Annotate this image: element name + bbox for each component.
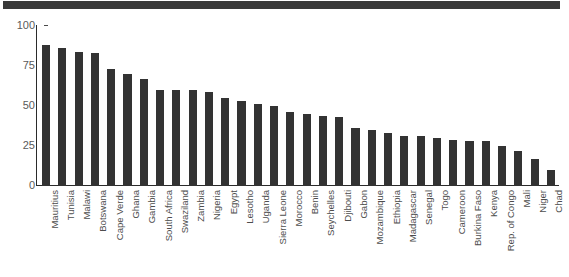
x-axis-tick-label: South Africa bbox=[164, 190, 174, 241]
x-axis-tick-label: Gabon bbox=[359, 190, 369, 219]
bar[interactable] bbox=[237, 101, 245, 186]
x-axis-tick-label: Madagascar bbox=[408, 190, 418, 242]
bar-slot bbox=[119, 25, 135, 186]
bar-slot bbox=[526, 25, 542, 186]
bar-slot bbox=[543, 25, 559, 186]
bar-slot bbox=[478, 25, 494, 186]
bar[interactable] bbox=[172, 90, 180, 186]
bar[interactable] bbox=[123, 74, 131, 186]
x-axis-tick-label: Botswana bbox=[98, 190, 108, 232]
x-axis-tick-label: Sierra Leone bbox=[278, 190, 288, 244]
x-axis-tick-label: Egypt bbox=[229, 190, 239, 214]
bar-slot bbox=[445, 25, 461, 186]
bar-slot bbox=[380, 25, 396, 186]
x-axis-tick-label: Benin bbox=[310, 190, 320, 214]
x-axis-tick-label: Mozambique bbox=[375, 190, 385, 244]
bar[interactable] bbox=[547, 170, 555, 186]
bar[interactable] bbox=[107, 69, 115, 186]
bar-slot bbox=[136, 25, 152, 186]
bar-slot bbox=[412, 25, 428, 186]
bar-slot bbox=[347, 25, 363, 186]
bar[interactable] bbox=[482, 141, 490, 186]
x-axis-tick-label: Seychelles bbox=[326, 190, 336, 236]
x-axis-tick-label: Niger bbox=[538, 190, 548, 213]
bar[interactable] bbox=[433, 138, 441, 186]
bar-slot bbox=[168, 25, 184, 186]
bar-slot bbox=[266, 25, 282, 186]
bar[interactable] bbox=[449, 140, 457, 186]
bar-slot bbox=[282, 25, 298, 186]
bar-slot bbox=[250, 25, 266, 186]
bar-slot bbox=[510, 25, 526, 186]
bar[interactable] bbox=[368, 130, 376, 186]
bar-slot bbox=[152, 25, 168, 186]
x-axis-tick-label: Malawi bbox=[82, 190, 92, 220]
bar[interactable] bbox=[319, 116, 327, 186]
bar[interactable] bbox=[91, 53, 99, 186]
x-axis-tick-label: Mali bbox=[522, 190, 532, 207]
bar[interactable] bbox=[351, 128, 359, 186]
x-axis-tick-label: Kenya bbox=[489, 190, 499, 217]
bar-slot bbox=[396, 25, 412, 186]
x-axis-tick-label: Gambia bbox=[147, 190, 157, 223]
bar[interactable] bbox=[140, 79, 148, 186]
x-axis-tick-label: Swaziland bbox=[180, 190, 190, 233]
x-axis-tick-label: Chad bbox=[554, 190, 564, 213]
bar-slot bbox=[494, 25, 510, 186]
bar-slot bbox=[364, 25, 380, 186]
bar[interactable] bbox=[303, 114, 311, 186]
bar[interactable] bbox=[75, 52, 83, 186]
x-axis-tick-label: Rep. of Congo bbox=[506, 190, 516, 251]
plot-area: 0255075100 MauritiusTunisiaMalawiBotswan… bbox=[0, 0, 569, 277]
x-axis-tick-label: Ethiopia bbox=[392, 190, 402, 224]
bar-slot bbox=[54, 25, 70, 186]
x-axis-tick-label: Uganda bbox=[261, 190, 271, 223]
bar-slot bbox=[185, 25, 201, 186]
bar-slot bbox=[103, 25, 119, 186]
bar[interactable] bbox=[58, 48, 66, 186]
bar[interactable] bbox=[270, 106, 278, 186]
x-axis-tick-label: Tunisia bbox=[66, 190, 76, 220]
bar-slot bbox=[71, 25, 87, 186]
bar[interactable] bbox=[498, 146, 506, 186]
x-axis-tick-label: Senegal bbox=[424, 190, 434, 225]
bar-group bbox=[38, 25, 559, 186]
x-axis-tick-label: Morocco bbox=[294, 190, 304, 226]
bar-slot bbox=[429, 25, 445, 186]
bar-slot bbox=[315, 25, 331, 186]
x-axis-tick-label: Ghana bbox=[131, 190, 141, 219]
bar-slot bbox=[201, 25, 217, 186]
bar[interactable] bbox=[514, 151, 522, 186]
bar[interactable] bbox=[400, 136, 408, 186]
bar[interactable] bbox=[254, 104, 262, 186]
bar-slot bbox=[233, 25, 249, 186]
bar-slot bbox=[87, 25, 103, 186]
x-axis-tick-label: Togo bbox=[440, 190, 450, 211]
bar[interactable] bbox=[221, 98, 229, 186]
bar[interactable] bbox=[465, 141, 473, 186]
bar-slot bbox=[461, 25, 477, 186]
x-axis-tick-label: Burkina Faso bbox=[473, 190, 483, 246]
bar[interactable] bbox=[384, 133, 392, 186]
x-axis-tick-label: Zambia bbox=[196, 190, 206, 222]
bar[interactable] bbox=[156, 90, 164, 186]
bar[interactable] bbox=[189, 90, 197, 186]
x-axis-tick-label: Cape Verde bbox=[115, 190, 125, 240]
x-axis-tick-label: Djibouti bbox=[343, 190, 353, 222]
bar-slot bbox=[38, 25, 54, 186]
x-axis-tick-label: Cameroon bbox=[457, 190, 467, 234]
chart-figure: 0255075100 MauritiusTunisiaMalawiBotswan… bbox=[0, 0, 569, 277]
bar-slot bbox=[331, 25, 347, 186]
bar[interactable] bbox=[205, 92, 213, 186]
x-axis-tick-label: Nigeria bbox=[212, 190, 222, 220]
bar[interactable] bbox=[42, 45, 50, 186]
bar[interactable] bbox=[531, 159, 539, 186]
x-axis-tick-label: Lesotho bbox=[245, 190, 255, 224]
bar[interactable] bbox=[286, 112, 294, 186]
bar-slot bbox=[299, 25, 315, 186]
bar[interactable] bbox=[417, 136, 425, 186]
bar-slot bbox=[217, 25, 233, 186]
x-axis-tick-label: Mauritius bbox=[50, 190, 60, 229]
bar[interactable] bbox=[335, 117, 343, 186]
